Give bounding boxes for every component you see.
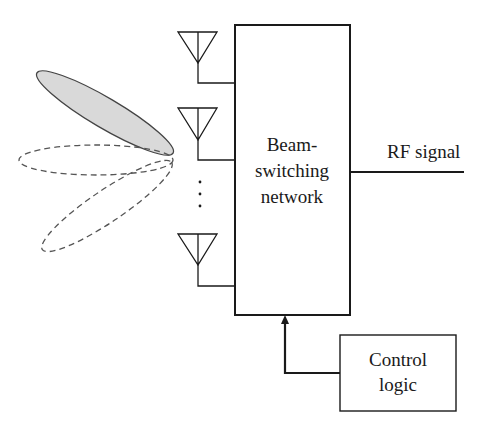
beam-switching-diagram: Beam- switching network RF signal Contro… — [0, 0, 499, 424]
antenna-2 — [178, 108, 235, 160]
beam-lower — [33, 149, 180, 263]
block-label-line-2: switching — [255, 160, 329, 181]
feed-line — [198, 63, 235, 83]
feed-line — [198, 140, 235, 160]
control-logic-block: Control logic — [340, 335, 456, 411]
block-label-line-1: Beam- — [267, 134, 318, 155]
control-signal-arrow — [281, 315, 340, 373]
beam-pattern — [19, 60, 181, 263]
antenna-1 — [178, 32, 235, 83]
control-label-line-1: Control — [369, 349, 427, 370]
block-label-line-3: network — [261, 186, 324, 207]
antenna-icon — [178, 108, 217, 140]
antenna-n — [178, 234, 235, 286]
beam-switching-network-block: Beam- switching network — [235, 25, 350, 315]
rf-output: RF signal — [350, 141, 464, 172]
antenna-icon — [178, 234, 217, 265]
rf-signal-label: RF signal — [387, 141, 460, 162]
feed-line — [198, 265, 235, 286]
ellipsis-dots — [199, 181, 202, 208]
control-label-line-2: logic — [379, 374, 417, 395]
arrowhead-icon — [281, 315, 289, 324]
antenna-icon — [178, 32, 217, 63]
beam-active — [29, 60, 180, 166]
beam-horizontal — [19, 145, 173, 175]
